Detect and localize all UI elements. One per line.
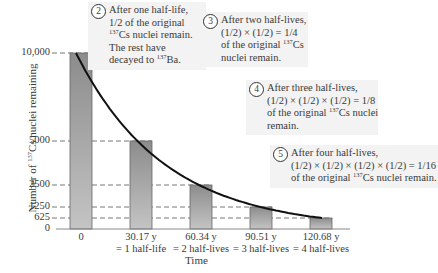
- callout-four-half-lives: 5After four half-lives,(1/2) × (1/2) × (…: [270, 145, 438, 188]
- callout-text: After two half-lives,(1/2) × (1/2) = 1/4…: [221, 14, 304, 64]
- bar: [310, 218, 332, 229]
- callout-text: After four half-lives,(1/2) × (1/2) × (1…: [291, 147, 434, 185]
- callout-two-half-lives: 3After two half-lives,(1/2) × (1/2) = 1/…: [200, 12, 308, 67]
- callout-one-half-life: 2After one half-life,1/2 of the original…: [88, 2, 206, 70]
- callout-three-half-lives: 4After three half-lives,(1/2) × (1/2) × …: [246, 80, 378, 135]
- y-tick-label: 10,000: [21, 46, 50, 57]
- x-tick-label: 120.68 y= 4 half-lives: [281, 231, 361, 255]
- step-number-badge: 4: [249, 82, 264, 97]
- callout-text: After three half-lives,(1/2) × (1/2) × (…: [267, 82, 374, 132]
- bar: [190, 185, 212, 229]
- bar: [70, 53, 92, 229]
- step-number-badge: 3: [203, 14, 218, 29]
- x-axis-title: Time: [185, 254, 208, 266]
- bar: [130, 141, 152, 229]
- callout-text: After one half-life,1/2 of the original1…: [109, 4, 202, 67]
- bar: [250, 207, 272, 229]
- y-axis-title: Number of 137Cs nuclei remaining: [26, 58, 38, 218]
- step-number-badge: 5: [273, 147, 288, 162]
- step-number-badge: 2: [91, 4, 106, 19]
